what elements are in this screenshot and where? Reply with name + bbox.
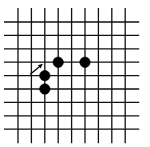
go-board-diagram — [0, 0, 150, 147]
black-stone — [53, 57, 63, 67]
black-stone — [80, 57, 90, 67]
black-stone — [40, 70, 50, 80]
black-stone — [40, 84, 50, 94]
grid-lines — [4, 8, 139, 143]
